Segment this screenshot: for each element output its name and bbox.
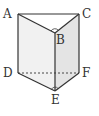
- vertex-label-c: C: [82, 7, 91, 21]
- triangular-prism-diagram: A C B D F E: [0, 0, 99, 116]
- vertex-label-a: A: [2, 7, 12, 21]
- face-bcfe: [55, 14, 79, 91]
- face-abed: [18, 14, 55, 91]
- vertex-label-d: D: [3, 66, 13, 80]
- vertex-label-f: F: [82, 66, 90, 80]
- vertex-label-e: E: [51, 93, 60, 107]
- vertex-label-b: B: [56, 33, 65, 47]
